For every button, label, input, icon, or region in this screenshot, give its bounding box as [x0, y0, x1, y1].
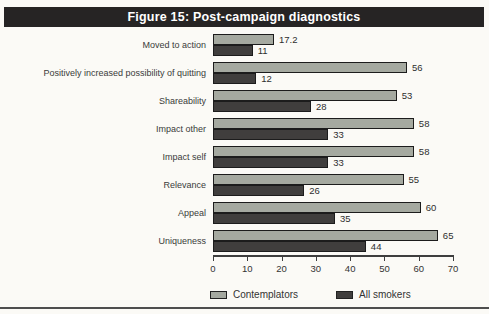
bar-row: Moved to action17.211: [16, 31, 469, 59]
bar-line: 26: [213, 185, 469, 196]
bar-contemplators: [213, 62, 407, 73]
bar-value-label: 33: [333, 158, 344, 168]
axis-tick: [453, 257, 454, 261]
bar-row: Impact self5833: [16, 143, 469, 171]
axis-tick: [282, 257, 283, 261]
legend-swatch-icon: [336, 291, 353, 299]
bar-line: 11: [213, 45, 469, 56]
category-label: Relevance: [16, 171, 213, 199]
bar-value-label: 44: [371, 242, 382, 252]
axis-tick-label: 50: [379, 263, 390, 274]
legend-swatch-icon: [210, 291, 227, 299]
bar-rows: Moved to action17.211Positively increase…: [16, 31, 469, 255]
category-label: Impact other: [16, 115, 213, 143]
bar-line: 35: [213, 213, 469, 224]
bar-value-label: 53: [402, 91, 413, 101]
bar-line: 33: [213, 129, 469, 140]
bar-all-smokers: [213, 73, 256, 84]
bar-line: 60: [213, 202, 469, 213]
bar-contemplators: [213, 90, 397, 101]
category-label: Moved to action: [16, 31, 213, 59]
bar-value-label: 60: [426, 203, 437, 213]
bar-all-smokers: [213, 45, 253, 56]
bar-group: 6544: [213, 227, 469, 255]
bar-contemplators: [213, 118, 414, 129]
bar-chart-plot: Moved to action17.211Positively increase…: [16, 31, 469, 279]
axis-tick-label: 70: [448, 263, 459, 274]
axis-tick-label: 10: [242, 263, 253, 274]
bar-group: 5526: [213, 171, 469, 199]
bar-group: 5833: [213, 115, 469, 143]
bar-row: Appeal6035: [16, 199, 469, 227]
bar-all-smokers: [213, 157, 328, 168]
bar-line: 28: [213, 101, 469, 112]
x-axis: 010203040506070: [213, 255, 454, 279]
category-label: Impact self: [16, 143, 213, 171]
bar-line: 55: [213, 174, 469, 185]
figure-title: Figure 15: Post-campaign diagnostics: [128, 10, 361, 24]
bar-contemplators: [213, 230, 438, 241]
bar-all-smokers: [213, 185, 304, 196]
bar-value-label: 35: [340, 214, 351, 224]
category-label: Shareability: [16, 87, 213, 115]
bar-contemplators: [213, 202, 421, 213]
axis-tick: [419, 257, 420, 261]
bar-line: 65: [213, 230, 469, 241]
bar-group: 17.211: [213, 31, 469, 59]
bar-line: 58: [213, 146, 469, 157]
bar-line: 12: [213, 73, 469, 84]
bar-row: Impact other5833: [16, 115, 469, 143]
axis-tick-label: 20: [276, 263, 287, 274]
bar-all-smokers: [213, 101, 311, 112]
bar-row: Positively increased possibility of quit…: [16, 59, 469, 87]
bar-row: Relevance5526: [16, 171, 469, 199]
bar-value-label: 28: [316, 102, 327, 112]
axis-tick-label: 0: [210, 263, 215, 274]
bar-line: 17.2: [213, 34, 469, 45]
axis-tick: [213, 257, 214, 261]
bar-line: 56: [213, 62, 469, 73]
bar-line: 33: [213, 157, 469, 168]
bar-group: 5328: [213, 87, 469, 115]
bar-row: Uniqueness6544: [16, 227, 469, 255]
category-label: Uniqueness: [16, 227, 213, 255]
bar-all-smokers: [213, 241, 366, 252]
bar-value-label: 56: [412, 63, 423, 73]
category-label: Appeal: [16, 199, 213, 227]
bar-value-label: 11: [258, 46, 268, 56]
bar-value-label: 26: [309, 186, 320, 196]
figure-bottom-rule: [0, 307, 489, 309]
bar-line: 58: [213, 118, 469, 129]
figure-15-chart: Figure 15: Post-campaign diagnostics Mov…: [0, 0, 489, 314]
bar-value-label: 65: [443, 231, 454, 241]
bar-value-label: 58: [419, 147, 430, 157]
bar-value-label: 55: [409, 175, 420, 185]
bar-line: 44: [213, 241, 469, 252]
bar-value-label: 58: [419, 119, 430, 129]
chart-legend: ContemplatorsAll smokers: [210, 289, 411, 300]
bar-line: 53: [213, 90, 469, 101]
legend-item-all-smokers: All smokers: [336, 289, 411, 300]
axis-tick-label: 60: [413, 263, 424, 274]
axis-tick-label: 40: [345, 263, 356, 274]
bar-value-label: 33: [333, 130, 344, 140]
legend-label: Contemplators: [233, 289, 298, 300]
bar-value-label: 17.2: [279, 35, 298, 45]
axis-tick: [316, 257, 317, 261]
bar-contemplators: [213, 174, 404, 185]
bar-row: Shareability5328: [16, 87, 469, 115]
bar-all-smokers: [213, 129, 328, 140]
bar-group: 5612: [213, 59, 469, 87]
axis-tick: [384, 257, 385, 261]
bar-contemplators: [213, 146, 414, 157]
axis-tick: [247, 257, 248, 261]
bar-all-smokers: [213, 213, 335, 224]
bar-value-label: 12: [261, 74, 272, 84]
category-label: Positively increased possibility of quit…: [16, 59, 213, 87]
figure-title-bar: Figure 15: Post-campaign diagnostics: [4, 7, 484, 27]
legend-item-contemplators: Contemplators: [210, 289, 298, 300]
bar-contemplators: [213, 34, 274, 45]
bar-group: 5833: [213, 143, 469, 171]
legend-label: All smokers: [359, 289, 411, 300]
axis-tick-label: 30: [311, 263, 322, 274]
